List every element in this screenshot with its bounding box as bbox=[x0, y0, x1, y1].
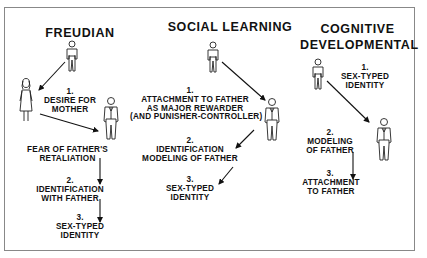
cognitive-father-figure bbox=[377, 119, 391, 161]
cognitive-boy-figure bbox=[313, 59, 323, 89]
social-father-figure bbox=[265, 99, 279, 141]
freudian-boy-figure bbox=[67, 41, 77, 71]
freudian-father-figure bbox=[104, 98, 118, 140]
social-boy-figure bbox=[208, 42, 218, 72]
diagram-graphics bbox=[0, 0, 427, 258]
freudian-mother-figure bbox=[20, 79, 32, 122]
